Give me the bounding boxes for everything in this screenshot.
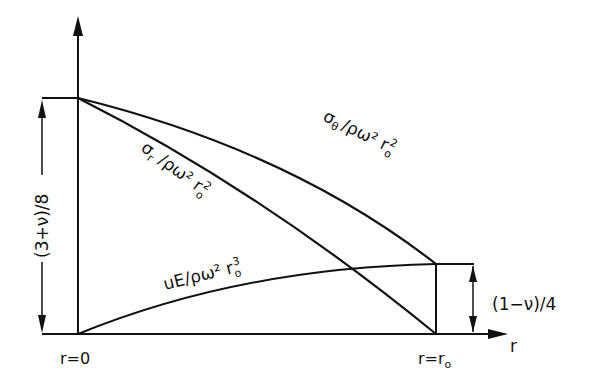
right-dimension-label: (1−ν)/4: [492, 294, 556, 314]
right-dimension: (1−ν)/4: [469, 266, 556, 332]
sigma-theta-curve: [78, 98, 436, 264]
r-zero-label: r=0: [60, 349, 90, 368]
displacement-curve: [78, 264, 436, 334]
r-outer-label: r=ro: [418, 349, 452, 371]
x-axis-label: r: [510, 336, 517, 356]
dimension-arrow-up-icon: [38, 100, 46, 118]
axis-arrow-up-icon: [73, 16, 83, 36]
axis-arrow-right-icon: [488, 329, 508, 339]
dimension-arrow-down-icon: [469, 316, 477, 332]
sigma-theta-label: σθ/ρω² ro2: [318, 105, 399, 162]
dimension-arrow-up-icon: [469, 266, 477, 282]
horizontal-axis: [42, 329, 508, 339]
dimension-arrow-down-icon: [38, 315, 46, 333]
left-dimension-label: (3+ν)/8: [32, 194, 52, 258]
displacement-label: uE/ρω² ro3: [161, 254, 244, 297]
disk-stress-diagram: r (3+ν)/8 (1−ν)/4 σθ/ρω² ro2 σr/ρω² ro2 …: [0, 0, 613, 387]
vertical-axis: [73, 16, 83, 334]
sigma-r-label: σr/ρω² ro2: [135, 136, 214, 203]
left-dimension: (3+ν)/8: [32, 100, 52, 333]
